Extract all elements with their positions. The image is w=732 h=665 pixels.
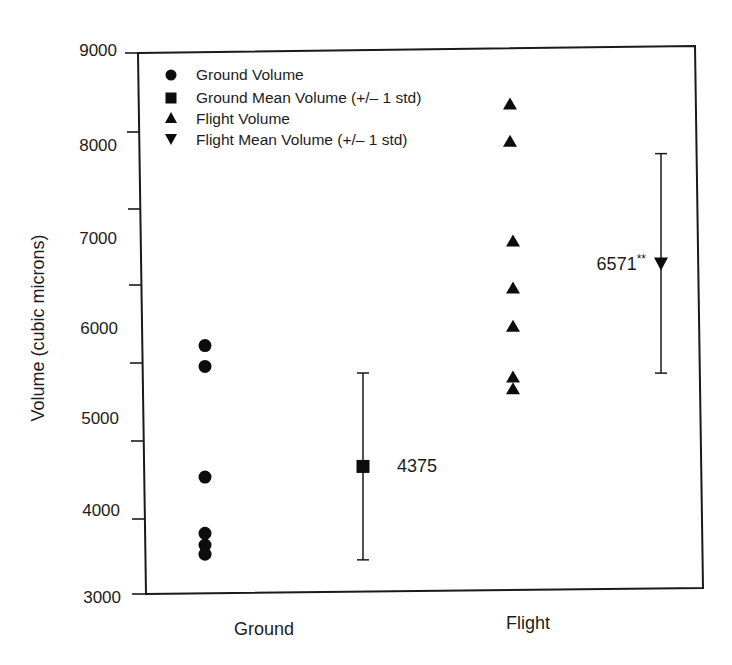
- legend-triangle-down-icon: [165, 134, 177, 145]
- ground-mean-square-icon: [357, 460, 370, 473]
- y-tick-label: 5000: [81, 409, 119, 428]
- flight-point-triangle-icon: [506, 282, 520, 294]
- y-tick-label: 8000: [79, 136, 117, 155]
- significance-marker: **: [637, 252, 647, 266]
- flight-point-triangle-icon: [506, 320, 520, 332]
- plot-frame: [138, 46, 703, 594]
- legend-label: Flight Volume: [196, 110, 290, 127]
- flight-point-triangle-icon: [506, 382, 520, 394]
- flight-mean-triangle-down-icon: [654, 257, 668, 270]
- legend-label: Ground Volume: [196, 66, 304, 83]
- flight-point-triangle-icon: [506, 234, 520, 246]
- ground-point-circle-icon: [199, 339, 212, 352]
- flight-volume-points: [503, 98, 520, 395]
- ground-point-circle-icon: [199, 360, 212, 373]
- y-tick-labels: 9000 8000 7000 6000 5000 4000 3000: [79, 41, 121, 607]
- x-label-ground: Ground: [234, 619, 294, 639]
- flight-point-triangle-icon: [503, 135, 517, 147]
- x-label-flight: Flight: [506, 613, 550, 633]
- legend-circle-icon: [166, 70, 177, 81]
- ground-point-circle-icon: [199, 527, 212, 540]
- flight-point-triangle-icon: [506, 371, 520, 383]
- flight-mean-label: 6571**: [597, 252, 647, 274]
- legend-label: Flight Mean Volume (+/– 1 std): [196, 131, 408, 148]
- ground-mean-label: 4375: [397, 456, 437, 476]
- flight-mean-value: 6571: [597, 254, 637, 274]
- y-tick-label: 4000: [82, 501, 120, 520]
- volume-scatter-chart: 9000 8000 7000 6000 5000 4000 3000 Volum…: [0, 0, 732, 665]
- ground-point-circle-icon: [199, 471, 212, 484]
- ground-mean-errorbar: 4375: [357, 373, 438, 560]
- y-tick-label: 7000: [79, 229, 117, 248]
- y-tick-label: 9000: [79, 41, 117, 60]
- y-axis-label: Volume (cubic microns): [28, 234, 48, 421]
- legend: Ground Volume Ground Mean Volume (+/– 1 …: [165, 66, 421, 148]
- legend-square-icon: [166, 93, 177, 104]
- y-tick-label: 6000: [80, 319, 118, 338]
- flight-mean-errorbar: 6571**: [597, 154, 668, 373]
- ground-volume-points: [199, 339, 212, 561]
- y-tick-label: 3000: [83, 588, 121, 607]
- ground-point-circle-icon: [199, 548, 212, 561]
- legend-label: Ground Mean Volume (+/– 1 std): [196, 89, 421, 106]
- flight-point-triangle-icon: [503, 98, 517, 110]
- legend-triangle-up-icon: [165, 112, 177, 123]
